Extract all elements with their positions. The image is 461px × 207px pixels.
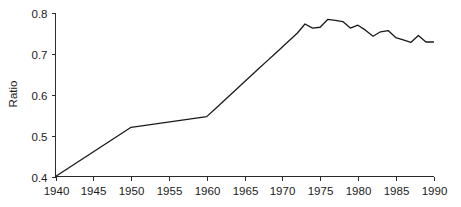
y-tick-label-0.4: 0.4 — [32, 172, 49, 184]
y-axis-title: Ratio — [7, 81, 19, 108]
y-tick-label-0.7: 0.7 — [32, 49, 48, 61]
x-tick-label-1945: 1945 — [81, 185, 107, 197]
plot-background — [0, 0, 461, 207]
chart-container: 1940194519501955196019651970197519801985… — [0, 0, 461, 207]
y-tick-label-0.5: 0.5 — [32, 131, 48, 143]
x-tick-label-1965: 1965 — [233, 185, 259, 197]
ratio-line-chart: 1940194519501955196019651970197519801985… — [0, 0, 461, 207]
x-tick-label-1970: 1970 — [270, 185, 296, 197]
y-tick-label-0.8: 0.8 — [32, 8, 48, 20]
x-axis-tick-labels: 1940194519501955196019651970197519801985… — [44, 185, 448, 197]
x-tick-label-1950: 1950 — [119, 185, 145, 197]
x-tick-label-1955: 1955 — [157, 185, 183, 197]
x-tick-label-1975: 1975 — [308, 185, 334, 197]
x-tick-label-1980: 1980 — [346, 185, 372, 197]
x-tick-label-1940: 1940 — [44, 185, 70, 197]
x-tick-label-1960: 1960 — [195, 185, 221, 197]
x-tick-label-1990: 1990 — [422, 185, 448, 197]
y-tick-label-0.6: 0.6 — [32, 90, 48, 102]
x-tick-label-1985: 1985 — [384, 185, 410, 197]
